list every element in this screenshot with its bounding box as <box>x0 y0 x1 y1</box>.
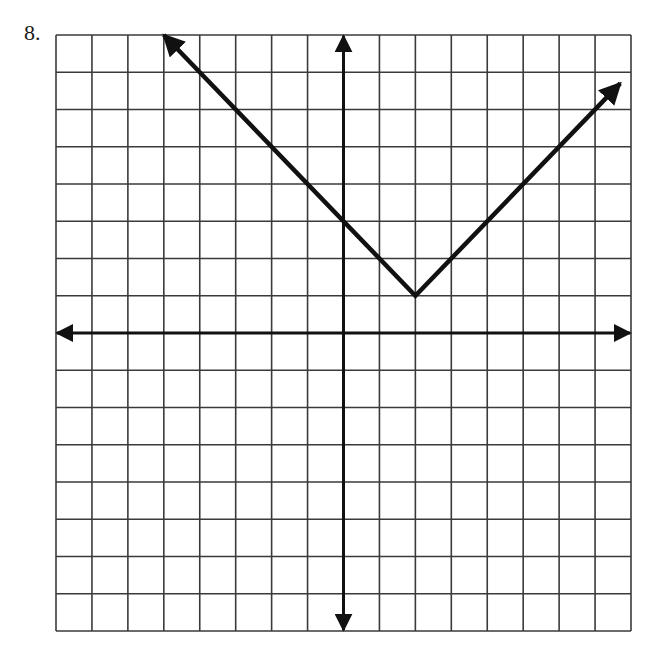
coordinate-graph <box>0 0 656 664</box>
function-graph <box>164 35 620 296</box>
axes <box>57 36 630 630</box>
absolute-value-line <box>164 35 620 296</box>
